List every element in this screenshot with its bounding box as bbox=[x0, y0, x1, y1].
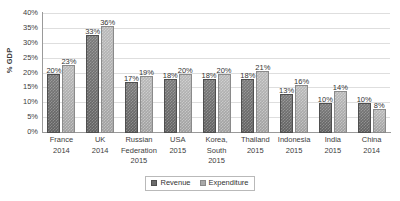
bar-expenditure[interactable]: 16% bbox=[295, 85, 308, 133]
x-axis-label: France2014 bbox=[42, 135, 81, 167]
x-axis-label-line: 2015 bbox=[237, 146, 274, 157]
bar-group: 10%8% bbox=[352, 13, 391, 133]
x-axis-label-line: 2014 bbox=[43, 146, 80, 157]
bar-chart: % GDP 40%35%30%25%20%15%10%5%0% 20%23%33… bbox=[0, 0, 400, 201]
y-axis-tick-label: 10% bbox=[14, 98, 38, 106]
bar-value-label: 14% bbox=[333, 83, 348, 92]
x-axis-label-line: 2015 bbox=[276, 146, 313, 157]
x-axis-label: India2015 bbox=[313, 135, 352, 167]
x-axis-label-line: 2014 bbox=[82, 146, 119, 157]
x-axis-label-line: 2015 bbox=[121, 156, 158, 167]
bar-expenditure[interactable]: 20% bbox=[179, 74, 192, 134]
y-axis-tick-label: 0% bbox=[14, 128, 38, 136]
bar-expenditure[interactable]: 14% bbox=[334, 91, 347, 133]
bar-value-label: 16% bbox=[294, 77, 309, 86]
bar-value-label: 18% bbox=[163, 71, 178, 80]
bar-value-label: 17% bbox=[124, 74, 139, 83]
legend-swatch-icon bbox=[151, 180, 157, 186]
bar-revenue[interactable]: 17% bbox=[125, 82, 138, 133]
bar-value-label: 20% bbox=[217, 66, 232, 75]
bar-expenditure[interactable]: 23% bbox=[62, 65, 75, 133]
bar-group: 13%16% bbox=[275, 13, 314, 133]
bar-value-label: 20% bbox=[46, 66, 61, 75]
legend-item-revenue[interactable]: Revenue bbox=[151, 178, 190, 188]
x-axis-label-line: 2015 bbox=[314, 146, 351, 157]
bar-revenue[interactable]: 18% bbox=[241, 79, 254, 133]
bar-revenue[interactable]: 18% bbox=[164, 79, 177, 133]
y-axis-tick-label: 25% bbox=[14, 54, 38, 62]
x-axis-label: Korea,South2015 bbox=[197, 135, 236, 167]
bar-value-label: 18% bbox=[202, 71, 217, 80]
bar-value-label: 13% bbox=[279, 86, 294, 95]
x-axis-label-line: Thailand bbox=[237, 135, 274, 146]
legend-item-expenditure[interactable]: Expenditure bbox=[200, 178, 249, 188]
y-axis-tick-label: 40% bbox=[14, 9, 38, 17]
x-axis-label-line: USA bbox=[159, 135, 196, 146]
x-axis-label-line: Korea, bbox=[198, 135, 235, 146]
x-axis-label-line: Federation bbox=[121, 146, 158, 157]
bar-expenditure[interactable]: 21% bbox=[256, 71, 269, 133]
x-axis-label: China2014 bbox=[352, 135, 391, 167]
x-axis-label: UK2014 bbox=[81, 135, 120, 167]
x-axis-label-line: South bbox=[198, 146, 235, 157]
bar-group: 20%23% bbox=[42, 13, 81, 133]
bar-groups: 20%23%33%36%17%19%18%20%18%20%18%21%13%1… bbox=[42, 13, 391, 133]
bar-value-label: 23% bbox=[61, 57, 76, 66]
bar-value-label: 20% bbox=[178, 66, 193, 75]
bar-revenue[interactable]: 10% bbox=[319, 103, 332, 133]
x-axis-label-line: India bbox=[314, 135, 351, 146]
x-axis-label: Thailand2015 bbox=[236, 135, 275, 167]
bar-value-label: 19% bbox=[139, 68, 154, 77]
legend-swatch-icon bbox=[200, 180, 206, 186]
x-axis-label-line: Indonesia bbox=[276, 135, 313, 146]
bar-expenditure[interactable]: 19% bbox=[140, 76, 153, 133]
x-axis-label: RussianFederation2015 bbox=[120, 135, 159, 167]
x-axis-label-line: 2014 bbox=[353, 146, 390, 157]
bar-value-label: 8% bbox=[374, 101, 385, 110]
x-axis-label-line: UK bbox=[82, 135, 119, 146]
bar-group: 18%20% bbox=[197, 13, 236, 133]
x-axis-label-line: Russian bbox=[121, 135, 158, 146]
legend-box: RevenueExpenditure bbox=[145, 176, 254, 191]
bar-group: 10%14% bbox=[313, 13, 352, 133]
legend-label: Expenditure bbox=[209, 178, 249, 188]
bar-group: 18%20% bbox=[158, 13, 197, 133]
bar-revenue[interactable]: 13% bbox=[280, 94, 293, 133]
x-axis-label: Indonesia2015 bbox=[275, 135, 314, 167]
bar-value-label: 10% bbox=[357, 95, 372, 104]
bar-revenue[interactable]: 18% bbox=[203, 79, 216, 133]
y-axis-tick-label: 35% bbox=[14, 24, 38, 32]
bar-expenditure[interactable]: 36% bbox=[101, 26, 114, 133]
y-axis-tick-label: 15% bbox=[14, 83, 38, 91]
bar-group: 18%21% bbox=[236, 13, 275, 133]
legend: RevenueExpenditure bbox=[0, 176, 400, 191]
bar-group: 33%36% bbox=[81, 13, 120, 133]
bar-revenue[interactable]: 33% bbox=[86, 35, 99, 133]
bar-value-label: 33% bbox=[85, 27, 100, 36]
x-axis-label-line: 2015 bbox=[159, 146, 196, 157]
bar-value-label: 36% bbox=[100, 18, 115, 27]
x-axis-labels: France2014UK2014RussianFederation2015USA… bbox=[42, 135, 391, 167]
y-axis-tick-label: 20% bbox=[14, 69, 38, 77]
x-axis-label-line: China bbox=[353, 135, 390, 146]
bar-value-label: 10% bbox=[318, 95, 333, 104]
bar-group: 17%19% bbox=[120, 13, 159, 133]
bar-expenditure[interactable]: 8% bbox=[373, 109, 386, 133]
y-axis-tick-labels: 40%35%30%25%20%15%10%5%0% bbox=[10, 0, 38, 201]
x-axis-label-line: 2015 bbox=[198, 156, 235, 167]
bar-value-label: 21% bbox=[255, 63, 270, 72]
bar-revenue[interactable]: 10% bbox=[358, 103, 371, 133]
y-axis-tick-label: 30% bbox=[14, 39, 38, 47]
bar-expenditure[interactable]: 20% bbox=[218, 74, 231, 134]
x-axis-label: USA2015 bbox=[158, 135, 197, 167]
legend-label: Revenue bbox=[160, 178, 190, 188]
x-axis-label-line: France bbox=[43, 135, 80, 146]
bar-revenue[interactable]: 20% bbox=[47, 74, 60, 134]
y-axis-tick-label: 5% bbox=[14, 113, 38, 121]
bar-value-label: 18% bbox=[240, 71, 255, 80]
